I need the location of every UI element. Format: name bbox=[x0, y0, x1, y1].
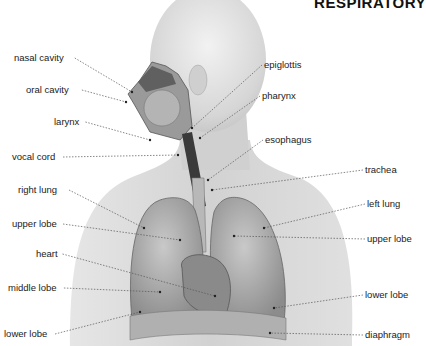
label-pharynx: pharynx bbox=[262, 90, 296, 101]
label-left-lung: left lung bbox=[367, 198, 400, 209]
label-oral-cavity: oral cavity bbox=[26, 84, 69, 95]
label-trachea: trachea bbox=[365, 164, 397, 175]
leader-line-vocal-cord bbox=[63, 155, 178, 157]
label-diaphragm: diaphragm bbox=[365, 329, 410, 340]
leader-dot-lower-lobe-left bbox=[273, 307, 275, 309]
label-heart: heart bbox=[36, 248, 58, 259]
label-esophagus: esophagus bbox=[265, 134, 311, 145]
label-middle-lobe: middle lobe bbox=[8, 282, 57, 293]
leader-line-larynx bbox=[85, 122, 150, 140]
label-vocal-cord: vocal cord bbox=[12, 151, 55, 162]
label-right-lung: right lung bbox=[18, 184, 57, 195]
leader-dot-right-lung bbox=[143, 227, 145, 229]
leader-dot-esophagus bbox=[207, 179, 209, 181]
label-larynx: larynx bbox=[54, 116, 79, 127]
leader-dot-pharynx bbox=[199, 137, 201, 139]
leader-dot-middle-lobe bbox=[159, 291, 161, 293]
leader-dot-left-lung bbox=[263, 227, 265, 229]
leader-line-nasal-cavity bbox=[75, 58, 132, 92]
label-epiglottis: epiglottis bbox=[264, 59, 302, 70]
leader-dot-lower-lobe-right bbox=[139, 311, 141, 313]
label-upper-lobe-left: upper lobe bbox=[367, 233, 412, 244]
leader-dot-upper-lobe-right bbox=[179, 239, 181, 241]
leader-dot-epiglottis bbox=[191, 127, 193, 129]
label-upper-lobe-right: upper lobe bbox=[12, 218, 57, 229]
leader-dot-trachea bbox=[211, 189, 213, 191]
leader-dot-oral-cavity bbox=[125, 101, 127, 103]
leader-dot-larynx bbox=[149, 139, 151, 141]
leader-dot-upper-lobe-left bbox=[233, 235, 235, 237]
label-lower-lobe-left: lower lobe bbox=[365, 289, 408, 300]
leader-dot-heart bbox=[214, 295, 216, 297]
leader-dot-diaphragm bbox=[269, 332, 271, 334]
leader-dot-nasal-cavity bbox=[131, 91, 133, 93]
leader-dot-vocal-cord bbox=[177, 154, 179, 156]
label-lower-lobe-right: lower lobe bbox=[4, 328, 47, 339]
label-nasal-cavity: nasal cavity bbox=[14, 52, 64, 63]
leader-line-oral-cavity bbox=[82, 90, 126, 102]
